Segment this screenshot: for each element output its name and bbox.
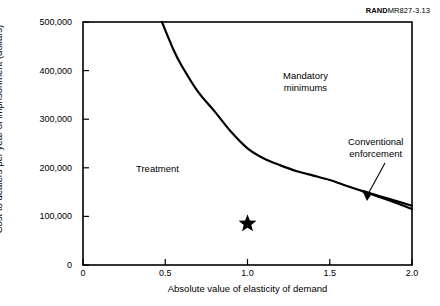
annotation-treatment: Treatment — [136, 163, 179, 175]
annotation-mandatory-minimums: Mandatory minimums — [283, 70, 328, 93]
annotation-conventional-enforcement: Conventional enforcement — [348, 136, 403, 159]
annotation-mandatory-minimums-line1: Mandatory — [283, 70, 328, 82]
annotation-conventional-enforcement-line2: enforcement — [348, 148, 403, 160]
figure-container: RANDMR827-3.13 Cost to dealers per year … — [0, 0, 440, 306]
annotation-conventional-enforcement-line1: Conventional — [348, 136, 403, 148]
annotation-mandatory-minimums-line2: minimums — [283, 82, 328, 94]
